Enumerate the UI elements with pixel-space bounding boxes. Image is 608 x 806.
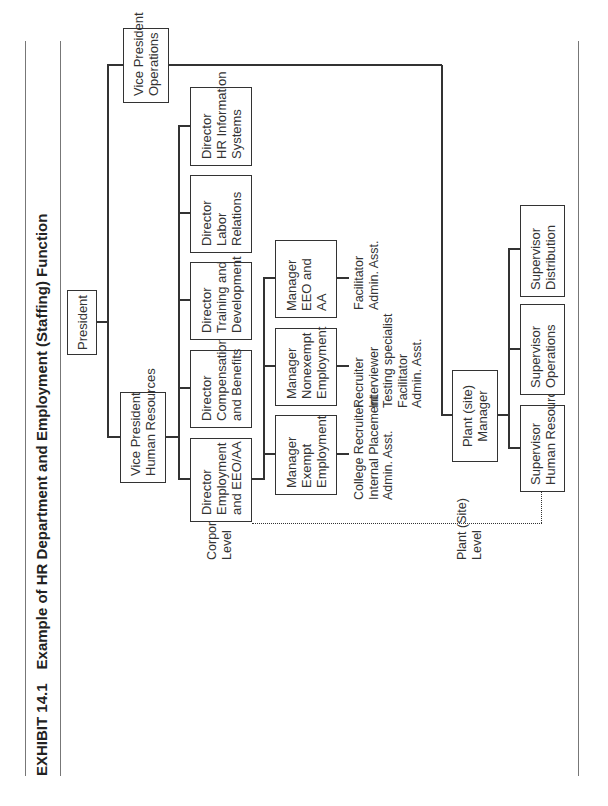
dotted-reporting-line (252, 523, 542, 524)
bottom-rule (578, 41, 579, 776)
director-training-box[interactable]: DirectorTraining andDevelopment (190, 262, 252, 340)
director-hris-box[interactable]: DirectorHR InformationSystems (190, 87, 252, 166)
staff-list-exempt: College RecruiterInternal PlacementAdmin… (352, 396, 396, 500)
exhibit-title: EXHIBIT 14.1Example of HR Department and… (33, 214, 50, 776)
vp-human-resources-box[interactable]: Vice PresidentHuman Resources (120, 392, 166, 483)
supervisor-hr-box[interactable]: SupervisorHuman Resources (520, 405, 565, 492)
director-labor-relations-box[interactable]: DirectorLaborRelations (190, 175, 252, 253)
manager-eeo-box[interactable]: ManagerEEO andAA (275, 240, 337, 318)
top-rule (25, 41, 26, 776)
supervisor-operations-box[interactable]: SupervisorOperations (520, 304, 565, 395)
director-compensation-box[interactable]: DirectorCompensationand Benefits (190, 350, 252, 428)
org-chart: EXHIBIT 14.1Example of HR Department and… (0, 0, 608, 806)
staff-list-eeo: FacilitatorAdmin. Asst. (352, 241, 381, 310)
title-rule (60, 41, 61, 776)
supervisor-distribution-box[interactable]: SupervisorDistribution (520, 205, 565, 297)
manager-exempt-box[interactable]: ManagerExemptEmployment (275, 415, 337, 495)
staff-list-nonexempt: RecruiterInterviewerTesting specialistFa… (352, 314, 425, 409)
plant-level-label: Plant (Site)Level (455, 498, 485, 560)
director-employment-box[interactable]: DirectorEmploymentand EEO/AA (190, 438, 252, 522)
president-box[interactable]: President (67, 290, 97, 355)
plant-manager-box[interactable]: Plant (site)Manager (452, 370, 498, 462)
manager-nonexempt-box[interactable]: ManagerNonexemptEmployment (275, 328, 337, 406)
dotted-reporting-line (541, 490, 542, 524)
vp-operations-box[interactable]: Vice PresidentOperations (123, 28, 169, 103)
